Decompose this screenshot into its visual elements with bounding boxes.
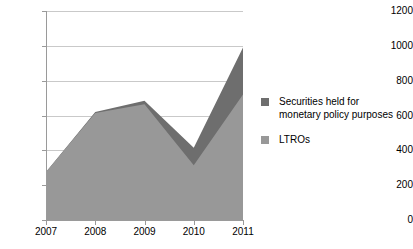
y-tick-label-1000: 1000 (373, 41, 413, 51)
y-tick-mark-1000 (42, 46, 46, 47)
y-tick-mark-200 (42, 185, 46, 186)
x-tick-label-2009: 2009 (122, 226, 168, 237)
x-tick-label-2008: 2008 (72, 226, 118, 237)
x-tick-mark-2007 (46, 221, 47, 225)
y-tick-label-0: 0 (373, 215, 413, 225)
legend-swatch-ltros-icon (261, 136, 269, 144)
legend-item-securities[interactable]: Securities held for monetary policy purp… (261, 96, 407, 121)
x-tick-mark-2008 (95, 221, 96, 225)
area-chart: 1200 1000 800 600 400 200 0 2007 2008 20… (0, 0, 413, 249)
x-tick-label-2007: 2007 (23, 226, 69, 237)
y-tick-mark-1200 (42, 11, 46, 12)
series-layer (46, 11, 243, 220)
legend-label-securities: Securities held for monetary policy purp… (279, 96, 393, 121)
legend-label-ltros: LTROs (279, 134, 310, 147)
x-tick-mark-2011 (243, 221, 244, 225)
x-tick-label-2011: 2011 (220, 226, 266, 237)
x-tick-mark-2009 (145, 221, 146, 225)
legend-item-ltros[interactable]: LTROs (261, 134, 407, 147)
x-tick-label-2010: 2010 (171, 226, 217, 237)
y-tick-label-200: 200 (373, 180, 413, 190)
x-tick-mark-2010 (194, 221, 195, 225)
legend-swatch-securities-icon (261, 98, 269, 106)
chart-legend: Securities held for monetary policy purp… (261, 96, 407, 160)
y-tick-label-1200: 1200 (373, 6, 413, 16)
y-tick-mark-400 (42, 150, 46, 151)
y-tick-mark-600 (42, 116, 46, 117)
y-tick-label-800: 800 (373, 76, 413, 86)
y-tick-mark-800 (42, 81, 46, 82)
y-axis-line (46, 11, 47, 221)
